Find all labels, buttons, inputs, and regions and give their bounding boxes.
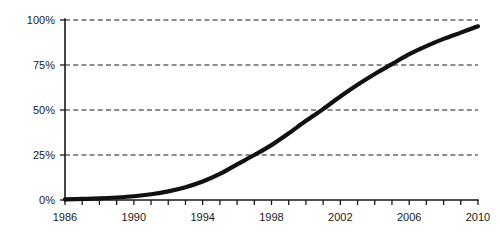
- x-tick-label-2010: 2010: [466, 211, 490, 223]
- y-axis-tick-labels: 0%25%50%75%100%: [27, 14, 55, 206]
- y-tick-label-100: 100%: [27, 14, 55, 26]
- x-tick-label-1986: 1986: [53, 211, 77, 223]
- gridlines: [65, 20, 478, 155]
- x-tick-label-1990: 1990: [122, 211, 146, 223]
- x-tick-label-2002: 2002: [328, 211, 352, 223]
- y-tick-label-0: 0%: [39, 194, 55, 206]
- line-chart: 0%25%50%75%100% 198619901994199820022006…: [0, 0, 500, 242]
- x-axis-tick-labels: 1986199019941998200220062010: [53, 211, 490, 223]
- x-tick-label-1994: 1994: [190, 211, 214, 223]
- series-line-adoption: [65, 26, 478, 199]
- y-tick-label-50: 50%: [33, 104, 55, 116]
- x-tick-label-1998: 1998: [259, 211, 283, 223]
- chart-container: 0%25%50%75%100% 198619901994199820022006…: [0, 0, 500, 242]
- x-tick-label-2006: 2006: [397, 211, 421, 223]
- y-tick-label-75: 75%: [33, 59, 55, 71]
- y-tick-label-25: 25%: [33, 149, 55, 161]
